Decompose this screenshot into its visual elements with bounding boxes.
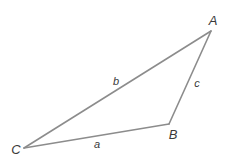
side-a-label: a: [94, 139, 100, 150]
vertex-c-label: C: [11, 143, 20, 156]
side-b-line: [24, 31, 211, 148]
side-c-label: c: [194, 78, 200, 89]
vertex-b-label: B: [169, 128, 178, 141]
side-b-label: b: [113, 76, 119, 87]
vertex-a-label: A: [209, 14, 218, 27]
